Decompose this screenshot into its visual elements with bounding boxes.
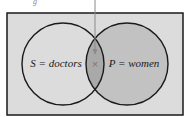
caption-fragment: g: [33, 0, 37, 6]
set-p-label: P = women: [108, 57, 160, 69]
intersection-marker: ×: [92, 58, 98, 70]
set-s-label: S = doctors: [30, 57, 81, 69]
venn-diagram: g × S = doctors P = women: [0, 0, 190, 117]
